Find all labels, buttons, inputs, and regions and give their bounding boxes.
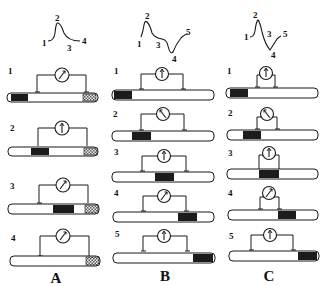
depolarized-region [230, 89, 248, 97]
crushed-end [86, 257, 99, 265]
panel-a-row-1: 1 [7, 66, 98, 102]
panel-b-row-5: 5 [113, 229, 215, 263]
panel-c-row-3: 3 [227, 147, 318, 180]
waveform-c-point-2: 2 [253, 10, 258, 20]
depolarized-region [11, 94, 28, 101]
waveform-b-point-3: 3 [156, 40, 161, 50]
panel-a-row-3: 3 [8, 178, 99, 214]
panel-b-row-4: 4 [113, 188, 214, 222]
row-label: 4 [228, 188, 233, 198]
nerve-tube [113, 212, 214, 222]
galvanometer [158, 230, 171, 243]
depolarized-region [178, 213, 197, 221]
waveform-b [141, 21, 188, 52]
depolarized-region [193, 254, 213, 262]
depolarized-region [278, 211, 296, 219]
galvanometer [261, 108, 274, 121]
row-label: 2 [10, 123, 15, 133]
row-label: 1 [114, 66, 119, 76]
galvanometer [260, 67, 273, 80]
galvanometer [56, 178, 70, 192]
depolarized-region [243, 131, 261, 139]
nerve-recording-diagram: 1 2 3 4 1 2 3 4 5 1 2 3 4 5 1 [0, 0, 328, 286]
row-label: 4 [114, 188, 119, 198]
waveform-a [48, 23, 80, 41]
waveform-b-point-2: 2 [145, 11, 150, 21]
waveform-c [250, 20, 281, 50]
depolarized-region [259, 170, 279, 178]
galvanometer [55, 121, 69, 135]
panel-b-label: B [160, 268, 170, 284]
waveform-b-point-4: 4 [172, 54, 177, 64]
galvanometer [56, 229, 70, 243]
row-label: 5 [229, 231, 234, 241]
galvanometer [157, 108, 170, 121]
row-label: 5 [115, 229, 120, 239]
galvanometer [156, 68, 169, 81]
waveform-b-point-1: 1 [137, 39, 142, 49]
panel-b-row-2: 2 [112, 108, 214, 142]
waveform-c-point-4: 4 [271, 50, 276, 60]
waveform-a-point-4: 4 [82, 36, 87, 46]
panel-c-row-4: 4 [228, 187, 318, 221]
row-label: 1 [227, 66, 232, 76]
crushed-end [84, 148, 97, 155]
panel-b-row-1: 1 [112, 66, 214, 100]
crushed-end [85, 205, 98, 213]
row-label: 3 [10, 181, 15, 191]
depolarized-region [298, 252, 317, 260]
row-label: 2 [113, 109, 118, 119]
panel-a-label: A [51, 270, 62, 286]
row-label: 1 [8, 66, 13, 76]
depolarized-region [31, 148, 49, 155]
depolarized-region [53, 205, 74, 213]
galvanometer [158, 150, 171, 163]
panel-c-row-5: 5 [229, 229, 319, 262]
panel-c-label: C [264, 268, 275, 284]
row-label: 3 [228, 148, 233, 158]
waveform-c-point-3: 3 [267, 29, 272, 39]
waveform-a-point-1: 1 [42, 38, 47, 48]
waveform-c-labels: 1 2 3 4 5 [244, 10, 288, 60]
row-label: 4 [11, 233, 16, 243]
row-label: 2 [228, 108, 233, 118]
galvanometer [264, 229, 277, 242]
panel-b-row-3: 3 [112, 147, 214, 182]
waveform-b-point-5: 5 [186, 27, 191, 37]
waveform-a-point-2: 2 [55, 13, 60, 23]
depolarized-region [114, 91, 132, 99]
waveform-c-point-1: 1 [244, 32, 249, 42]
row-label: 3 [114, 147, 119, 157]
nerve-tube [228, 210, 318, 220]
galvanometer [263, 147, 276, 160]
depolarized-region [132, 132, 151, 140]
crushed-end [83, 94, 96, 101]
panel-a-row-2: 2 [8, 121, 98, 156]
waveform-a-point-3: 3 [67, 43, 72, 53]
panel-c-row-1: 1 [226, 66, 318, 98]
panel-c-row-2: 2 [227, 108, 318, 141]
depolarized-region [155, 173, 174, 181]
panel-a-row-4: 4 [10, 229, 100, 266]
galvanometer [158, 190, 171, 203]
waveform-c-point-5: 5 [283, 29, 288, 39]
nerve-tube [112, 131, 214, 141]
waveform-b-labels: 1 2 3 4 5 [137, 11, 191, 64]
galvanometer [263, 187, 276, 200]
galvanometer [55, 68, 69, 82]
nerve-tube [227, 130, 318, 140]
